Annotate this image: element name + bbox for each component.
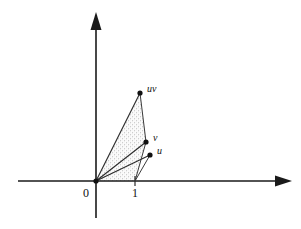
y-axis-arrowhead bbox=[91, 12, 102, 30]
vector-diagram-figure: uv v u 0 1 bbox=[0, 0, 301, 229]
point-label-u: u bbox=[157, 145, 162, 156]
x-axis-arrowhead bbox=[275, 176, 292, 187]
point-uv bbox=[137, 90, 142, 95]
point-v bbox=[143, 139, 148, 144]
point-label-uv: uv bbox=[147, 83, 157, 94]
diagram-canvas: uv v u 0 1 bbox=[0, 0, 301, 229]
origin-point bbox=[93, 178, 98, 183]
x-axis-tick-label-1: 1 bbox=[132, 186, 138, 200]
point-u bbox=[147, 152, 152, 157]
point-label-v: v bbox=[153, 132, 158, 143]
origin-label: 0 bbox=[83, 186, 89, 200]
